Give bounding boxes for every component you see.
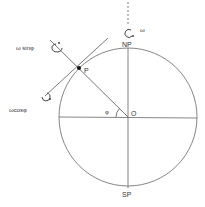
earth-rotation-diagram: NP SP P O φ ω ω sinφ ωcosφ bbox=[0, 0, 205, 207]
omega-sin-label: ω sinφ bbox=[16, 45, 34, 51]
omega-label: ω bbox=[140, 27, 145, 33]
point-p bbox=[77, 66, 81, 70]
phi-label: φ bbox=[105, 109, 109, 115]
angle-arc bbox=[116, 109, 120, 118]
o-label: O bbox=[131, 110, 137, 117]
omega-cos-rotation-icon bbox=[42, 93, 50, 101]
omega-rotation-icon bbox=[125, 29, 132, 37]
np-label: NP bbox=[122, 41, 132, 48]
omega-cos-label: ωcosφ bbox=[9, 107, 27, 113]
tangent-line bbox=[45, 38, 108, 96]
p-label: P bbox=[84, 67, 89, 74]
radius-line bbox=[50, 40, 128, 117]
omega-sin-rotation-icon bbox=[52, 44, 62, 52]
sp-label: SP bbox=[122, 191, 132, 198]
